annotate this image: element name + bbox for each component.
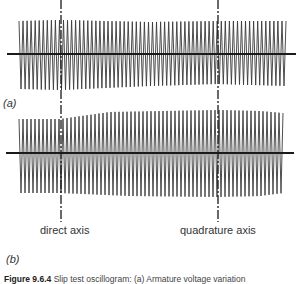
panel-b-oscillogram — [6, 110, 294, 197]
panel-a-label: (a) — [3, 97, 16, 109]
quadrature-axis-label: quadrature axis — [180, 224, 256, 236]
panel-a-oscillogram — [7, 20, 296, 90]
caption-text: Slip test oscillogram: (a) Armature volt… — [54, 274, 246, 284]
waveform-trace — [19, 20, 286, 90]
panel-b-label: (b) — [6, 253, 19, 265]
caption-number: Figure 9.6.4 — [4, 274, 51, 284]
direct-axis-label: direct axis — [40, 224, 90, 236]
figure-caption: Figure 9.6.4 Slip test oscillogram: (a) … — [4, 274, 245, 284]
